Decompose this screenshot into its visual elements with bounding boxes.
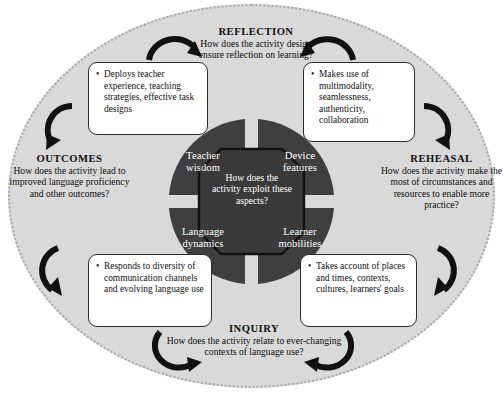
quadrant-label-language-dynamics: Language dynamics bbox=[171, 226, 235, 249]
callout-language-dynamics: Responds to diversity of communication c… bbox=[88, 254, 212, 327]
stage-title: REHEASAL bbox=[380, 152, 503, 165]
callout-text: Takes account of places and times, conte… bbox=[308, 261, 409, 296]
stage-question: How does the activity design ensure refl… bbox=[196, 38, 316, 61]
quadrant-label-teacher-wisdom: Teacher wisdom bbox=[171, 150, 235, 173]
callout-text: Deploys teacher experience, teaching str… bbox=[96, 69, 200, 115]
stage-question: How does the activity relate to ever-cha… bbox=[165, 335, 343, 358]
stage-label-rehearsal: REHEASAL How does the activity make the … bbox=[380, 152, 503, 211]
hub-question: How does the activity exploit these aspe… bbox=[211, 172, 293, 206]
diagram-canvas: Teacher wisdom Device features Language … bbox=[0, 0, 503, 393]
stage-title: INQUIRY bbox=[165, 322, 343, 335]
callout-device-features: Makes use of multimodality, seamlessness… bbox=[303, 62, 415, 142]
callout-teacher-wisdom: Deploys teacher experience, teaching str… bbox=[88, 62, 208, 135]
stage-question: How does the activity make the most of c… bbox=[380, 165, 503, 211]
callout-learner-mobilities: Takes account of places and times, conte… bbox=[300, 254, 417, 327]
stage-title: OUTCOMES bbox=[2, 152, 137, 165]
quadrant-label-device-features: Device features bbox=[268, 150, 332, 173]
stage-label-inquiry: INQUIRY How does the activity relate to … bbox=[165, 322, 343, 358]
stage-title: REFLECTION bbox=[196, 25, 316, 38]
stage-label-outcomes: OUTCOMES How does the activity lead to i… bbox=[2, 152, 137, 199]
quadrant-label-learner-mobilities: Learner mobilities bbox=[268, 226, 332, 249]
callout-text: Responds to diversity of communication c… bbox=[96, 261, 204, 296]
stage-question: How does the activity lead to improved l… bbox=[2, 165, 137, 199]
callout-text: Makes use of multimodality, seamlessness… bbox=[311, 69, 407, 127]
stage-label-reflection: REFLECTION How does the activity design … bbox=[196, 25, 316, 61]
